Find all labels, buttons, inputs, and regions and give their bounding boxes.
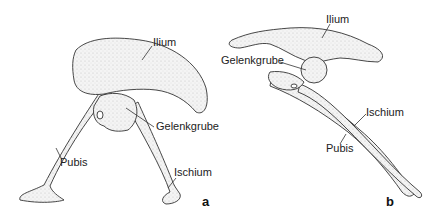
label-ilium-b: Ilium bbox=[326, 14, 349, 25]
label-pubis-a: Pubis bbox=[60, 157, 88, 168]
panel-letter-b: b bbox=[386, 195, 394, 208]
label-ischium-b: Ischium bbox=[366, 107, 404, 118]
panel-letter-a: a bbox=[202, 195, 209, 208]
label-gelenkgrube-b: Gelenkgrube bbox=[221, 55, 284, 66]
label-ilium-a: Ilium bbox=[153, 37, 176, 48]
label-ischium-a: Ischium bbox=[174, 167, 212, 178]
label-pubis-b: Pubis bbox=[326, 143, 354, 154]
pelvis-figure: Ilium Gelenkgrube Pubis Ischium a Ilium … bbox=[0, 0, 442, 219]
label-gelenkgrube-a: Gelenkgrube bbox=[156, 121, 219, 132]
